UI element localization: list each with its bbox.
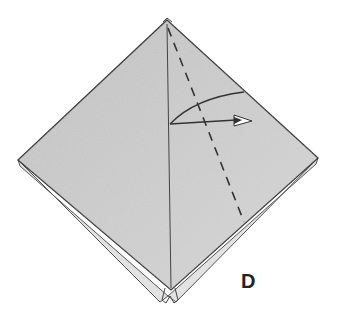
origami-diagram (0, 0, 342, 320)
step-label: D (241, 270, 255, 293)
